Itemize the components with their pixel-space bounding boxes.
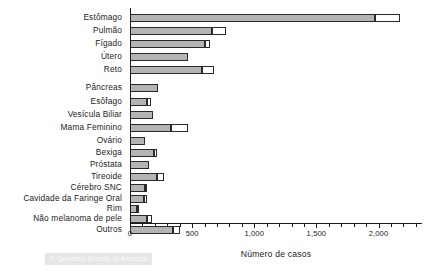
- x-tick-minor: [366, 224, 367, 227]
- bar-segment-filled: [130, 66, 202, 74]
- category-label: Esôfago: [91, 97, 123, 106]
- category-label: Fígado: [95, 39, 122, 48]
- bar-segment-filled: [130, 215, 147, 223]
- x-tick-label: 1,000: [244, 229, 264, 238]
- x-tick-minor: [416, 224, 417, 227]
- bar-segment-open: [147, 98, 151, 106]
- bar-segment-open: [147, 215, 153, 223]
- category-label: Mama Feminino: [61, 123, 122, 132]
- bar-segment-filled: [130, 195, 144, 203]
- x-axis-title: Número de casos: [130, 249, 422, 259]
- x-tick-minor: [329, 224, 330, 227]
- x-tick-minor: [354, 224, 355, 227]
- bar-segment-open: [202, 66, 214, 74]
- x-tick-label: 500: [186, 229, 199, 238]
- bar-segment-filled: [130, 226, 173, 234]
- x-tick-minor: [142, 224, 143, 227]
- x-tick-minor: [155, 224, 156, 227]
- x-tick-major: [254, 224, 255, 228]
- category-label: Ovário: [97, 136, 122, 145]
- bar-segment-open: [205, 40, 211, 48]
- x-tick-minor: [279, 224, 280, 227]
- bar-chart: EstômagoPulmãoFígadoÚteroRetoPâncreasEsô…: [0, 0, 428, 276]
- x-tick-minor: [180, 224, 181, 227]
- x-tick-minor: [391, 224, 392, 227]
- x-tick-minor: [403, 224, 404, 227]
- x-tick-major: [192, 224, 193, 228]
- x-tick-minor: [341, 224, 342, 227]
- bar-segment-filled: [130, 205, 137, 213]
- bar-segment-filled: [130, 84, 158, 92]
- bar-segment-filled: [130, 111, 153, 119]
- category-label: Cavidade da Faringe Oral: [23, 194, 122, 203]
- x-tick-label: 1,500: [307, 229, 327, 238]
- x-tick-label: 0: [128, 229, 132, 238]
- category-label: Estômago: [83, 13, 122, 22]
- bar-segment-open: [212, 27, 226, 35]
- bar-segment-filled: [130, 53, 188, 61]
- x-tick-minor: [242, 224, 243, 227]
- x-tick-label: 2,000: [369, 229, 389, 238]
- x-tick-minor: [217, 224, 218, 227]
- x-tick-major: [316, 224, 317, 228]
- bar-segment-filled: [130, 184, 145, 192]
- category-labels: EstômagoPulmãoFígadoÚteroRetoPâncreasEsô…: [0, 8, 126, 223]
- x-tick-minor: [304, 224, 305, 227]
- bar-segment-open: [145, 184, 147, 192]
- copyright-watermark: © Genetics Society of America: [45, 253, 152, 265]
- bar-segment-filled: [130, 98, 147, 106]
- category-label: Próstata: [90, 160, 122, 169]
- category-label: Pulmão: [93, 26, 122, 35]
- category-label: Bexiga: [96, 148, 122, 157]
- x-tick-minor: [267, 224, 268, 227]
- x-tick-minor: [229, 224, 230, 227]
- x-tick-major: [130, 224, 131, 228]
- bar-segment-filled: [130, 124, 171, 132]
- x-tick-minor: [292, 224, 293, 227]
- bar-segment-open: [137, 205, 139, 213]
- x-tick-minor: [205, 224, 206, 227]
- category-label: Cérebro SNC: [71, 183, 122, 192]
- category-label: Outros: [96, 225, 122, 234]
- category-label: Pâncreas: [86, 83, 122, 92]
- x-tick-minor: [167, 224, 168, 227]
- bar-segment-filled: [130, 40, 205, 48]
- category-label: Vesícula Biliar: [68, 110, 122, 119]
- x-tick-major: [379, 224, 380, 228]
- category-label: Rim: [107, 204, 122, 213]
- category-label: Útero: [101, 52, 122, 61]
- y-axis-line: [130, 8, 131, 223]
- bar-segment-filled: [130, 27, 212, 35]
- bar-segment-open: [157, 173, 164, 181]
- bar-segment-open: [171, 124, 188, 132]
- bar-segment-filled: [130, 14, 375, 22]
- bar-segment-filled: [130, 173, 157, 181]
- bar-segment-filled: [130, 149, 154, 157]
- plot-area: [130, 8, 422, 223]
- category-label: Tireoide: [91, 172, 122, 181]
- category-label: Reto: [104, 65, 122, 74]
- bar-segment-filled: [130, 137, 145, 145]
- bar-segment-open: [144, 195, 146, 203]
- bar-segment-open: [375, 14, 400, 22]
- category-label: Não melanoma de pele: [33, 214, 122, 223]
- bar-segment-open: [173, 226, 180, 234]
- bar-segment-filled: [130, 161, 149, 169]
- bar-segment-open: [154, 149, 157, 157]
